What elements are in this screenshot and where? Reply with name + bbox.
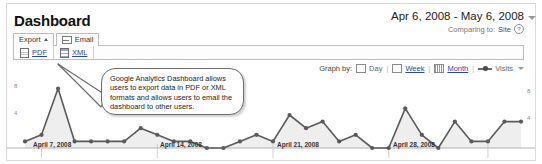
date-range-value: Apr 6, 2008 - May 6, 2008 <box>391 10 524 22</box>
data-point[interactable] <box>354 133 358 137</box>
graph-by-separator-3: | <box>472 64 474 73</box>
y-axis-tick-right-8: 8 <box>527 88 530 94</box>
data-point[interactable] <box>486 139 490 143</box>
calendar-day-icon <box>356 64 366 73</box>
chevron-down-icon <box>518 67 524 70</box>
line-marker-icon <box>478 65 492 72</box>
graph-by-week-option[interactable]: Week <box>392 64 424 73</box>
calendar-week-icon <box>392 64 402 73</box>
data-point[interactable] <box>155 133 159 137</box>
export-pdf-label: PDF <box>32 48 47 57</box>
data-point[interactable] <box>304 126 308 130</box>
calendar-month-icon <box>434 64 444 73</box>
data-point[interactable] <box>502 120 506 124</box>
data-point[interactable] <box>122 139 126 143</box>
export-pdf-option[interactable]: PDF <box>14 46 54 59</box>
data-point[interactable] <box>23 139 27 143</box>
graph-by-controls: Graph by: Day | Week | Month | Visits <box>319 64 524 73</box>
data-point[interactable] <box>254 133 258 137</box>
xml-document-icon <box>60 48 69 58</box>
graph-by-day-option[interactable]: Day <box>356 64 382 73</box>
export-toolbar: Export Email <box>13 33 99 46</box>
data-point[interactable] <box>271 139 275 143</box>
callout-text: Google Analytics Dashboard allows users … <box>110 74 236 112</box>
export-xml-option[interactable]: XML <box>54 46 94 59</box>
data-point[interactable] <box>321 120 325 124</box>
data-point[interactable] <box>238 139 242 143</box>
data-point[interactable] <box>370 146 374 150</box>
y-axis-tick-left-4: 4 <box>14 110 17 116</box>
y-axis-tick-right-4: 4 <box>527 115 530 121</box>
analytics-dashboard-screenshot: Dashboard Apr 6, 2008 - May 6, 2008 Comp… <box>0 0 542 164</box>
data-point[interactable] <box>56 87 60 91</box>
help-icon[interactable]: ? <box>514 24 524 34</box>
data-point[interactable] <box>39 133 43 137</box>
callout-balloon: Google Analytics Dashboard allows users … <box>101 68 244 115</box>
data-point[interactable] <box>205 146 209 150</box>
export-xml-label: XML <box>72 48 87 57</box>
data-point[interactable] <box>106 139 110 143</box>
data-point[interactable] <box>453 120 457 124</box>
date-range-selector[interactable]: Apr 6, 2008 - May 6, 2008 Comparing to: … <box>391 10 524 34</box>
x-axis-label-0: April 7, 2008 <box>33 141 71 148</box>
graph-by-day-label: Day <box>369 64 382 73</box>
data-point[interactable] <box>420 133 424 137</box>
comparing-to-row: Comparing to: Site ? <box>391 24 524 34</box>
x-axis-label-1: April 14, 2008 <box>160 141 202 148</box>
series-selector[interactable]: Visits <box>478 64 524 73</box>
chart-canvas <box>7 76 535 160</box>
data-point[interactable] <box>436 146 440 150</box>
caret-up-icon <box>44 38 48 41</box>
graph-by-week-label: Week <box>405 64 424 73</box>
data-point[interactable] <box>221 146 225 150</box>
data-point[interactable] <box>403 106 407 110</box>
graph-by-label: Graph by: <box>319 64 352 73</box>
data-point[interactable] <box>387 146 391 150</box>
data-point[interactable] <box>89 139 93 143</box>
comparing-to-label: Comparing to: <box>448 25 495 34</box>
email-button-label: Email <box>75 35 94 44</box>
data-point[interactable] <box>73 139 77 143</box>
graph-by-separator-1: | <box>386 64 388 73</box>
data-point[interactable] <box>469 139 473 143</box>
graph-by-month-option[interactable]: Month <box>434 64 468 73</box>
visits-line-chart[interactable] <box>7 76 535 160</box>
x-axis-label-2: April 21, 2008 <box>277 141 319 148</box>
series-label: Visits <box>495 64 513 73</box>
email-button[interactable]: Email <box>56 33 100 46</box>
export-format-panel: PDF XML <box>13 45 524 60</box>
data-point[interactable] <box>337 139 341 143</box>
data-point[interactable] <box>519 120 523 124</box>
export-button-label: Export <box>19 35 41 44</box>
chart-area-fill <box>25 89 521 148</box>
graph-by-separator-2: | <box>428 64 430 73</box>
graph-by-month-label: Month <box>447 64 468 73</box>
pdf-document-icon <box>20 48 29 58</box>
export-button[interactable]: Export <box>13 33 54 46</box>
envelope-icon <box>62 36 72 44</box>
data-point[interactable] <box>139 126 143 130</box>
chevron-down-icon[interactable] <box>528 16 536 20</box>
y-axis-tick-left-8: 8 <box>14 83 17 89</box>
comparing-to-value: Site <box>498 25 511 34</box>
page-title: Dashboard <box>14 12 91 29</box>
x-axis-label-3: April 28, 2008 <box>393 141 435 148</box>
chart-plot-group <box>7 87 535 159</box>
data-point[interactable] <box>287 113 291 117</box>
